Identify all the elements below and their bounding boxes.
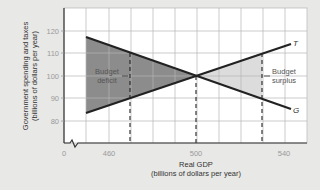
x-tick-460: 460: [103, 149, 116, 158]
y-tick-90: 90: [51, 94, 59, 103]
y-tick-80: 80: [51, 117, 59, 126]
curve-g-label: G: [293, 106, 299, 115]
y-tick-120: 120: [46, 27, 59, 36]
y-tick-100: 100: [46, 72, 59, 81]
budget-surplus-label-2: surplus: [272, 76, 296, 85]
budget-chart: 120 110 100 90 80 0 460 500 540 Real GDP…: [0, 0, 320, 190]
y-axis-title: Government spending and taxes: [21, 22, 30, 131]
budget-surplus-label: Budget: [272, 67, 297, 76]
y-axis-subtitle: (billions of dollars per year): [30, 30, 39, 121]
x-axis-title: Real GDP: [179, 160, 213, 169]
x-axis-subtitle: (billions of dollars per year): [151, 169, 242, 178]
y-tick-110: 110: [47, 49, 59, 58]
budget-deficit-label: Budget: [95, 67, 120, 76]
budget-deficit-label-2: deficit: [97, 76, 118, 85]
x-tick-0: 0: [62, 149, 66, 158]
x-tick-500: 500: [190, 149, 203, 158]
x-tick-540: 540: [278, 149, 291, 158]
